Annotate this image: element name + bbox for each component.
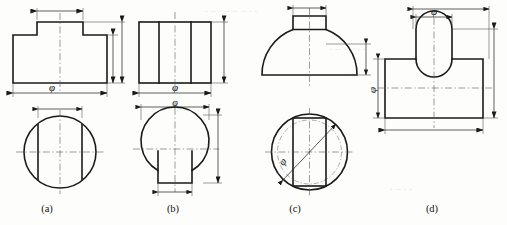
view-b-phi-top: φ: [172, 97, 178, 108]
view-a: φ: [13, 8, 125, 194]
svg-text:. .. . .. .. .. . .: . .. . .. .. .. . .: [205, 2, 258, 14]
technical-drawing-canvas: . .. . .. .. .. . . . .. . .. . . . .. .…: [0, 0, 507, 225]
caption-d: (d): [417, 203, 447, 214]
scan-bleed-artifacts: . .. . .. .. .. . . . .. . .. . . . .. .…: [205, 2, 412, 192]
view-a-phi-front: φ: [49, 81, 55, 93]
caption-c: (c): [280, 203, 310, 214]
view-b: φ φ: [133, 12, 228, 196]
view-c: φ: [262, 5, 371, 196]
view-b-phi-front: φ: [172, 81, 178, 93]
view-d-phi-top: φ: [431, 5, 437, 17]
svg-text:. .. . .: . .. . .: [390, 180, 412, 192]
drawing-sheet: . .. . .. .. .. . . . .. . .. . . . .. .…: [0, 0, 507, 225]
caption-b: (b): [158, 203, 188, 214]
view-d-phi-left: φ: [366, 87, 378, 93]
caption-a: (a): [32, 203, 62, 214]
view-d: φ φ: [366, 5, 498, 134]
view-c-phi-diagonal: φ: [276, 155, 289, 168]
